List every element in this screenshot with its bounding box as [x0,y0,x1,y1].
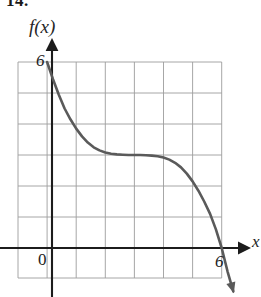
x-axis-label: x [252,232,260,252]
function-curve [47,62,235,293]
graph-figure: 14. f(x) [0,0,261,297]
curve-polyline [47,62,233,291]
y-intercept-label: 6 [36,51,45,71]
grid-lines [18,62,222,278]
x-intercept-label: 6 [215,252,224,272]
origin-label: 0 [38,250,47,270]
